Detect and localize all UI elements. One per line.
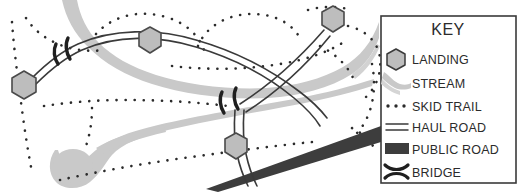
landing-northeast bbox=[322, 6, 344, 32]
map-canvas: KEY LANDING STREAM SKID TRAIL bbox=[0, 0, 521, 195]
public-road-bar-icon bbox=[385, 143, 409, 154]
legend-label-public-road: PUBLIC ROAD bbox=[412, 143, 499, 157]
map-figure: KEY LANDING STREAM SKID TRAIL bbox=[0, 0, 521, 195]
bridge-west bbox=[54, 38, 70, 64]
skid-trail-midleft-branch bbox=[44, 100, 228, 106]
legend-label-stream: STREAM bbox=[412, 77, 465, 91]
legend-label-skid-trail: SKID TRAIL bbox=[412, 100, 482, 114]
skid-trail-upper-right-arch bbox=[198, 14, 302, 46]
landing-north-center bbox=[139, 27, 161, 53]
legend-label-haul-road: HAUL ROAD bbox=[412, 121, 486, 135]
legend-label-bridge: BRIDGE bbox=[412, 166, 461, 180]
stream-south-lobe bbox=[96, 125, 166, 154]
landing-hexagon-icon bbox=[387, 49, 405, 70]
legend: KEY LANDING STREAM SKID TRAIL bbox=[381, 16, 516, 183]
skid-trail-center-stub bbox=[86, 108, 92, 146]
landing-south-center bbox=[225, 133, 247, 159]
legend-title: KEY bbox=[431, 21, 465, 38]
legend-row-landing: LANDING bbox=[387, 49, 469, 70]
legend-label-landing: LANDING bbox=[412, 53, 469, 67]
skid-trail-dots-icon bbox=[386, 104, 405, 107]
landing-west bbox=[12, 71, 36, 99]
stream-south-pond bbox=[53, 149, 93, 183]
